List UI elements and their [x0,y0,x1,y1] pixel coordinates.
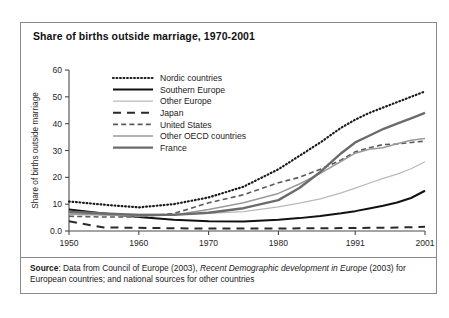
figure-panel: Share of births outside marriage, 1970-2… [20,22,437,294]
legend-label-southern-europe[interactable]: Southern Europe [160,85,225,95]
legend-label-other-europe[interactable]: Other Europe [160,96,212,106]
source-publication-title: Recent Demographic development in Europe [200,263,367,273]
chart-plot-area: 0.0102030405060195019601970198019912001S… [21,45,436,253]
x-tick-label: 1950 [59,238,78,248]
source-text-part1: : Data from Council of Europe (2003), [58,263,200,273]
source-divider [21,257,436,258]
series-line-japan [69,221,425,228]
series-line-other-oecd-countries [69,138,425,216]
series-line-france [69,113,425,215]
x-tick-label: 2001 [415,238,434,248]
y-tick-label: 30 [52,146,62,156]
x-tick-label: 1970 [199,238,218,248]
y-axis-title: Share of births outside marriage [31,92,40,209]
screenshot-root: Share of births outside marriage, 1970-2… [0,0,449,318]
x-tick-label: 1991 [346,238,365,248]
legend-label-japan[interactable]: Japan [160,108,184,118]
legend-label-other-oecd-countries[interactable]: Other OECD countries [160,131,246,141]
legend-label-nordic-countries[interactable]: Nordic countries [160,73,222,83]
source-label: Source [30,263,58,273]
y-tick-label: 0.0 [50,226,62,236]
page-title: Share of births outside marriage, 1970-2… [33,30,255,42]
x-tick-label: 1980 [269,238,288,248]
x-tick-label: 1960 [129,238,148,248]
legend-label-united-states[interactable]: United States [160,120,212,130]
y-tick-label: 20 [52,172,62,182]
y-tick-label: 40 [52,119,62,129]
line-chart: 0.0102030405060195019601970198019912001S… [21,45,436,253]
legend-label-france[interactable]: France [160,143,187,153]
y-tick-label: 60 [52,65,62,75]
y-tick-label: 50 [52,92,62,102]
source-note: Source: Data from Council of Europe (200… [30,263,428,286]
y-tick-label: 10 [52,199,62,209]
